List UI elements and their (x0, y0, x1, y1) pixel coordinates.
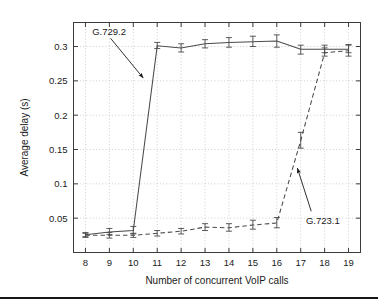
y-tick-label: 0.1 (54, 178, 67, 189)
x-tick-label: 14 (224, 257, 235, 268)
x-tick-label: 8 (83, 257, 88, 268)
annotation-arrow-G.723.1 (297, 168, 311, 211)
y-tick-label: 0.15 (49, 144, 68, 155)
y-axis-title: Average delay (s) (19, 98, 30, 176)
x-tick-label: 19 (343, 257, 354, 268)
chart-figure: 0.050.10.150.20.250.38910111213141516171… (0, 0, 378, 304)
x-tick-label: 11 (152, 257, 162, 268)
x-tick-label: 13 (200, 257, 211, 268)
x-tick-label: 16 (272, 257, 283, 268)
x-tick-label: 17 (295, 257, 306, 268)
annotation-label-G.729.2: G.729.2 (92, 26, 126, 37)
series-line-G.723.1 (85, 51, 348, 236)
x-tick-label: 12 (176, 257, 187, 268)
annotation-label-G.723.1: G.723.1 (306, 215, 340, 226)
y-tick-label: 0.05 (49, 213, 68, 224)
chart-plot-area: 0.050.10.150.20.250.38910111213141516171… (0, 0, 378, 304)
y-tick-label: 0.25 (49, 75, 68, 86)
y-tick-label: 0.2 (54, 110, 67, 121)
x-axis-title: Number of concurrent VoIP calls (145, 275, 288, 286)
x-tick-label: 18 (319, 257, 330, 268)
y-tick-label: 0.3 (54, 41, 67, 52)
bottom-divider-rule (0, 297, 378, 299)
x-tick-label: 10 (128, 257, 139, 268)
annotation-arrow-G.729.2 (111, 38, 144, 78)
x-tick-label: 15 (248, 257, 259, 268)
x-tick-label: 9 (107, 257, 112, 268)
